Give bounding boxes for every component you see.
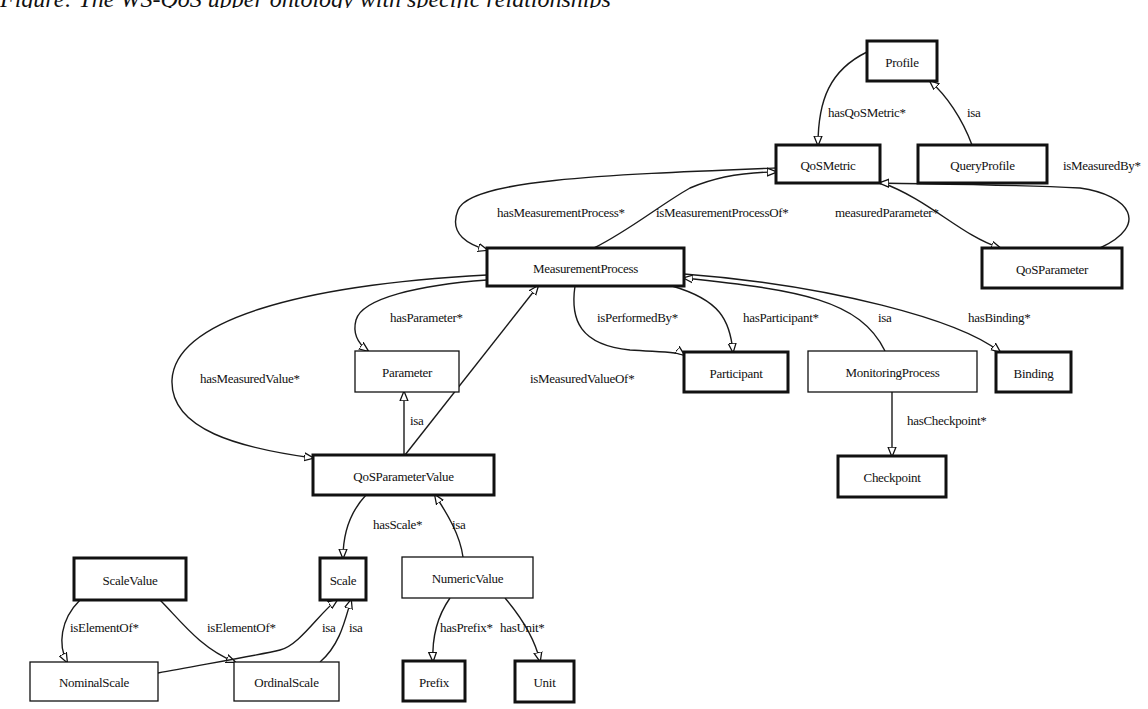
edge-label: hasBinding* [968, 310, 1030, 325]
edge-label: isa [967, 105, 981, 120]
node-label: QueryProfile [950, 158, 1015, 173]
node-label: Participant [709, 366, 763, 381]
edge-label: measuredParameter* [835, 205, 939, 220]
node-label: NumericValue [432, 571, 504, 586]
ontology-diagram: hasQoSMetric*isaisMeasuredBy*hasMeasurem… [0, 0, 1148, 709]
edge-label: hasPrefix* [440, 620, 493, 635]
node-label: Unit [534, 675, 557, 690]
edge-label: hasQoSMetric* [828, 105, 906, 120]
node-label: QoSMetric [800, 158, 856, 173]
node-label: Binding [1014, 366, 1055, 381]
node-label: Scale [330, 573, 357, 588]
node-checkpoint: Checkpoint [838, 456, 946, 497]
node-parameter: Parameter [355, 351, 459, 392]
node-unit: Unit [515, 661, 574, 702]
node-numericvalue: NumericValue [402, 557, 533, 598]
arrow-icon [343, 495, 366, 558]
node-label: QoSParameterValue [353, 469, 454, 484]
node-label: MeasurementProcess [533, 261, 638, 276]
edge-label: isPerformedBy* [597, 310, 678, 325]
edge-label: isa [452, 517, 466, 532]
node-ordinalscale: OrdinalScale [234, 662, 339, 701]
edge-label: isMeasurementProcessOf* [656, 205, 788, 220]
node-qosmetric: QoSMetric [776, 145, 880, 183]
node-label: OrdinalScale [254, 675, 319, 690]
edge-profile-to-qosmetric [818, 52, 867, 145]
arrow-icon [930, 81, 972, 145]
node-label: Checkpoint [864, 470, 922, 485]
edge-label: hasMeasuredValue* [200, 371, 300, 386]
node-monitoringprocess: MonitoringProcess [808, 351, 977, 392]
edge-label: hasParameter* [390, 310, 463, 325]
node-measurementprocess: MeasurementProcess [487, 248, 684, 286]
node-label: Prefix [419, 675, 450, 690]
arrow-icon [672, 286, 733, 352]
node-prefix: Prefix [403, 661, 465, 701]
edge-label: isMeasuredValueOf* [530, 371, 634, 386]
node-nominalscale: NominalScale [30, 662, 158, 701]
edge-queryprofile-to-profile [930, 81, 972, 145]
edge-qosparametervalue-to-scale [343, 495, 366, 558]
edge-label: isa [878, 310, 892, 325]
node-queryprofile: QueryProfile [918, 145, 1047, 183]
node-binding: Binding [996, 352, 1071, 392]
node-scale: Scale [320, 558, 366, 600]
edge-label: isMeasuredBy* [1063, 158, 1141, 173]
node-label: Parameter [382, 365, 433, 380]
edge-label: hasParticipant* [743, 310, 819, 325]
edge-measurementprocess-to-participant [672, 286, 733, 352]
node-qosparametervalue: QoSParameterValue [313, 455, 494, 495]
edge-label: isa [349, 620, 363, 635]
edge-label: hasCheckpoint* [907, 413, 987, 428]
edge-label: isa [410, 413, 424, 428]
node-profile: Profile [867, 41, 937, 81]
edge-label: isa [322, 620, 336, 635]
edge-label: hasUnit* [500, 620, 545, 635]
arrow-icon [818, 52, 867, 145]
node-label: Profile [885, 55, 919, 70]
edge-label: isElementOf* [207, 620, 276, 635]
node-qosparameter: QoSParameter [982, 248, 1122, 288]
node-label: MonitoringProcess [846, 365, 940, 380]
node-scalevalue: ScaleValue [74, 558, 186, 600]
node-label: ScaleValue [103, 573, 158, 588]
edge-label: hasScale* [373, 517, 422, 532]
node-label: QoSParameter [1016, 262, 1089, 277]
edge-label: hasMeasurementProcess* [497, 205, 625, 220]
node-participant: Participant [684, 352, 788, 392]
node-label: NominalScale [59, 675, 130, 690]
edge-label: isElementOf* [70, 620, 139, 635]
